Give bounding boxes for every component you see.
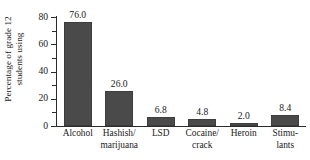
x-axis-category-label-line: Hashish/ xyxy=(97,128,143,140)
x-axis-category-label-line: LSD xyxy=(138,128,184,140)
x-axis-category-label: Stimu-lants xyxy=(263,128,309,151)
x-axis-category-label: Hashish/marijuana xyxy=(97,128,143,151)
y-tick-major xyxy=(51,44,56,45)
bar xyxy=(105,91,133,126)
y-tick-minor xyxy=(52,85,56,86)
x-axis-category-label-line: Stimu- xyxy=(263,128,309,140)
x-axis-category-label-line: crack xyxy=(180,140,226,152)
y-tick-label: 40 xyxy=(8,66,48,76)
x-axis-category-label-line: Cocaine/ xyxy=(180,128,226,140)
y-tick-major xyxy=(51,72,56,73)
bar xyxy=(188,119,216,126)
bar-chart: Percentage of grade 12 students using 02… xyxy=(0,0,310,160)
x-axis-category-label: Cocaine/crack xyxy=(180,128,226,151)
y-tick-label: 80 xyxy=(8,12,48,22)
x-axis-category-label: Alcohol xyxy=(55,128,101,140)
bar xyxy=(64,22,92,126)
x-axis-category-labels: AlcoholHashish/marijuanaLSDCocaine/crack… xyxy=(57,128,306,160)
bar-value-label: 4.8 xyxy=(182,107,222,117)
y-tick-minor xyxy=(52,112,56,113)
x-axis-category-label-line: marijuana xyxy=(97,140,143,152)
bar-value-label: 2.0 xyxy=(224,111,264,121)
bar-value-label: 76.0 xyxy=(58,10,98,20)
y-tick-label: 60 xyxy=(8,39,48,49)
bar-value-label: 6.8 xyxy=(141,105,181,115)
bar xyxy=(230,123,258,126)
y-tick-major xyxy=(51,17,56,18)
y-tick-major xyxy=(51,126,56,127)
x-axis-category-label: LSD xyxy=(138,128,184,140)
y-tick-minor xyxy=(52,31,56,32)
y-tick-label: 0 xyxy=(8,121,48,131)
bar xyxy=(147,117,175,126)
x-axis-line xyxy=(56,126,306,127)
bar xyxy=(271,115,299,126)
bar-value-label: 26.0 xyxy=(99,79,139,89)
x-axis-category-label-line: lants xyxy=(263,140,309,152)
x-axis-category-label: Heroin xyxy=(221,128,267,140)
y-tick-major xyxy=(51,99,56,100)
y-tick-minor xyxy=(52,58,56,59)
x-axis-category-label-line: Heroin xyxy=(221,128,267,140)
bar-value-label: 8.4 xyxy=(265,103,305,113)
x-axis-category-label-line: Alcohol xyxy=(55,128,101,140)
y-tick-label: 20 xyxy=(8,93,48,103)
